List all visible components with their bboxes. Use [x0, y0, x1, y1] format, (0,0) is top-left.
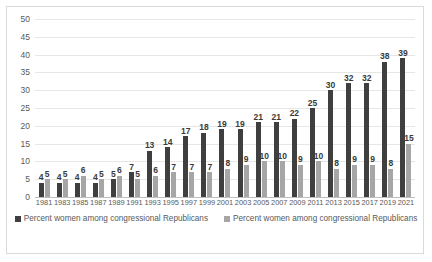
bar-value-label: 17 [181, 127, 190, 136]
bar-value-label: 4 [39, 173, 44, 182]
y-axis-tick-label: 0 [25, 193, 30, 202]
x-axis-tick-label: 2019 [379, 199, 397, 206]
bar-group: 229 [288, 19, 306, 197]
bar: 22 [292, 119, 297, 197]
bar-value-label: 8 [388, 159, 393, 168]
bar: 8 [225, 169, 230, 197]
bar: 17 [183, 136, 188, 197]
bar-group: 136 [144, 19, 162, 197]
y-axis-tick-label: 20 [21, 122, 30, 131]
x-axis-tick-label: 1993 [144, 199, 162, 206]
bar-value-label: 9 [244, 155, 249, 164]
bar: 6 [117, 176, 122, 197]
x-axis-tick-label: 2013 [325, 199, 343, 206]
bar: 15 [406, 144, 411, 197]
bar-value-label: 5 [45, 170, 50, 179]
bar-value-label: 15 [404, 134, 413, 143]
bar-value-label: 4 [57, 173, 62, 182]
y-axis-tick-label: 25 [21, 104, 30, 113]
bar: 7 [189, 172, 194, 197]
x-axis-tick-label: 2021 [397, 199, 415, 206]
bar-value-label: 7 [171, 163, 176, 172]
bar-value-label: 25 [308, 99, 317, 108]
x-axis-tick-label: 1981 [35, 199, 53, 206]
bar-value-label: 6 [117, 166, 122, 175]
bar: 9 [298, 165, 303, 197]
bar: 8 [388, 169, 393, 197]
x-axis-tick-label: 1985 [71, 199, 89, 206]
bar-value-label: 30 [326, 81, 335, 90]
x-axis-tick-label: 2009 [288, 199, 306, 206]
bar-value-label: 21 [272, 113, 281, 122]
bar: 9 [370, 165, 375, 197]
bar-group: 75 [125, 19, 143, 197]
bar: 5 [135, 179, 140, 197]
bar: 30 [328, 90, 333, 197]
bar-value-label: 6 [153, 166, 158, 175]
bar-group: 45 [89, 19, 107, 197]
bar-value-label: 6 [81, 166, 86, 175]
bar-group: 199 [234, 19, 252, 197]
bar-value-label: 7 [129, 163, 134, 172]
bar-group: 147 [162, 19, 180, 197]
bar-value-label: 38 [380, 52, 389, 61]
bar-value-label: 10 [259, 152, 268, 161]
chart-container: 50454035302520151050 4545464556751361471… [6, 6, 424, 254]
x-axis-tick-label: 1991 [125, 199, 143, 206]
y-axis-tick-label: 45 [21, 33, 30, 42]
bar-group: 45 [35, 19, 53, 197]
x-axis: 1981198319851987198919911993199519971999… [35, 199, 415, 206]
bar-group: 388 [379, 19, 397, 197]
bar-group: 329 [361, 19, 379, 197]
bar-value-label: 9 [352, 155, 357, 164]
bar-value-label: 5 [111, 170, 116, 179]
bar-value-label: 22 [290, 109, 299, 118]
bar: 32 [364, 83, 369, 197]
bar-group: 56 [107, 19, 125, 197]
bar-group: 308 [325, 19, 343, 197]
bar-value-label: 10 [314, 152, 323, 161]
bar-group: 177 [180, 19, 198, 197]
bar-value-label: 32 [362, 74, 371, 83]
bar-value-label: 4 [75, 173, 80, 182]
bar-value-label: 5 [99, 170, 104, 179]
x-axis-tick-label: 2003 [234, 199, 252, 206]
bar: 5 [63, 179, 68, 197]
bar: 4 [75, 183, 80, 197]
legend-label: Percent women among congressional Republ… [24, 215, 208, 223]
bar: 7 [129, 172, 134, 197]
bar-value-label: 8 [226, 159, 231, 168]
bar: 4 [57, 183, 62, 197]
bar-value-label: 19 [217, 120, 226, 129]
x-axis-tick-label: 2007 [270, 199, 288, 206]
x-axis-tick-label: 1989 [107, 199, 125, 206]
bar: 9 [352, 165, 357, 197]
bar-value-label: 8 [334, 159, 339, 168]
y-axis-tick-label: 15 [21, 139, 30, 148]
bar-value-label: 19 [235, 120, 244, 129]
bar: 9 [244, 165, 249, 197]
bar-value-label: 13 [145, 141, 154, 150]
bar: 7 [171, 172, 176, 197]
bar: 39 [400, 58, 405, 197]
bar: 5 [111, 179, 116, 197]
x-axis-tick-label: 2015 [343, 199, 361, 206]
bar-group: 2510 [306, 19, 324, 197]
bar-value-label: 10 [278, 152, 287, 161]
bar-value-label: 7 [208, 163, 213, 172]
bar: 19 [238, 129, 243, 197]
legend-swatch-icon [15, 216, 21, 222]
bar-group: 329 [343, 19, 361, 197]
bar: 6 [153, 176, 158, 197]
x-axis-tick-label: 1995 [162, 199, 180, 206]
bar: 4 [39, 183, 44, 197]
bar: 7 [207, 172, 212, 197]
y-axis-tick-label: 30 [21, 86, 30, 95]
legend-swatch-icon [224, 216, 230, 222]
legend-item[interactable]: Percent women among congressional Republ… [15, 215, 208, 223]
bar: 4 [93, 183, 98, 197]
bar-group: 46 [71, 19, 89, 197]
bar-value-label: 9 [370, 155, 375, 164]
legend-item[interactable]: Percent women among congressional Republ… [224, 215, 417, 223]
bar: 10 [316, 161, 321, 197]
